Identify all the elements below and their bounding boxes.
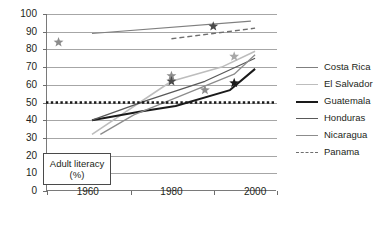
star-marker <box>54 37 64 46</box>
y-axis-tick-label: 40 <box>0 115 37 125</box>
y-axis-tick-label: 60 <box>0 80 37 90</box>
y-axis-tick-label: 80 <box>0 44 37 54</box>
legend-label: Nicaragua <box>324 129 367 140</box>
annotation-line-2: (%) <box>70 169 85 180</box>
legend-swatch-icon <box>296 79 318 89</box>
x-axis-tick <box>131 191 132 195</box>
legend-swatch-icon <box>296 113 318 123</box>
y-axis-tick-label: 50 <box>0 98 37 108</box>
legend-swatch-icon <box>296 130 318 140</box>
y-axis-tick-label: 100 <box>0 9 37 19</box>
legend-label: Costa Rica <box>324 61 370 72</box>
legend-item-nicaragua[interactable]: Nicaragua <box>296 126 378 143</box>
star-marker <box>208 21 218 30</box>
x-axis-tick <box>214 191 215 195</box>
star-marker <box>200 85 210 94</box>
annotation-line-1: Adult literacy <box>50 158 104 169</box>
adult-literacy-chart: 1009080706050403020100 196019802000 Adul… <box>0 0 378 225</box>
series-line-panama <box>171 28 255 39</box>
y-axis-tick-label: 30 <box>0 133 37 143</box>
legend-item-panama[interactable]: Panama <box>296 143 378 160</box>
legend-label: Panama <box>324 146 359 157</box>
legend-label: Guatemala <box>324 95 370 106</box>
y-axis-tick-label: 70 <box>0 62 37 72</box>
legend-item-guatemala[interactable]: Guatemala <box>296 92 378 109</box>
legend-swatch-icon <box>296 96 318 106</box>
y-axis-tick-label: 90 <box>0 27 37 37</box>
series-line-nicaragua <box>100 55 255 135</box>
y-axis-tick-label: 20 <box>0 151 37 161</box>
y-axis-tick-label: 10 <box>0 168 37 178</box>
legend-item-el-salvador[interactable]: El Salvador <box>296 75 378 92</box>
annotation-box: Adult literacy (%) <box>43 153 111 185</box>
y-axis-tick-label: 0 <box>0 186 37 196</box>
legend-swatch-icon <box>296 147 318 157</box>
legend-swatch-icon <box>296 62 318 72</box>
legend-item-honduras[interactable]: Honduras <box>296 109 378 126</box>
legend: Costa RicaEl SalvadorGuatemalaHondurasNi… <box>296 58 378 160</box>
x-axis-tick <box>277 191 278 195</box>
legend-label: Honduras <box>324 112 365 123</box>
legend-item-costa-rica[interactable]: Costa Rica <box>296 58 378 75</box>
legend-label: El Salvador <box>324 78 373 89</box>
x-axis-tick <box>47 191 48 195</box>
series-line-el-salvador <box>92 51 255 134</box>
